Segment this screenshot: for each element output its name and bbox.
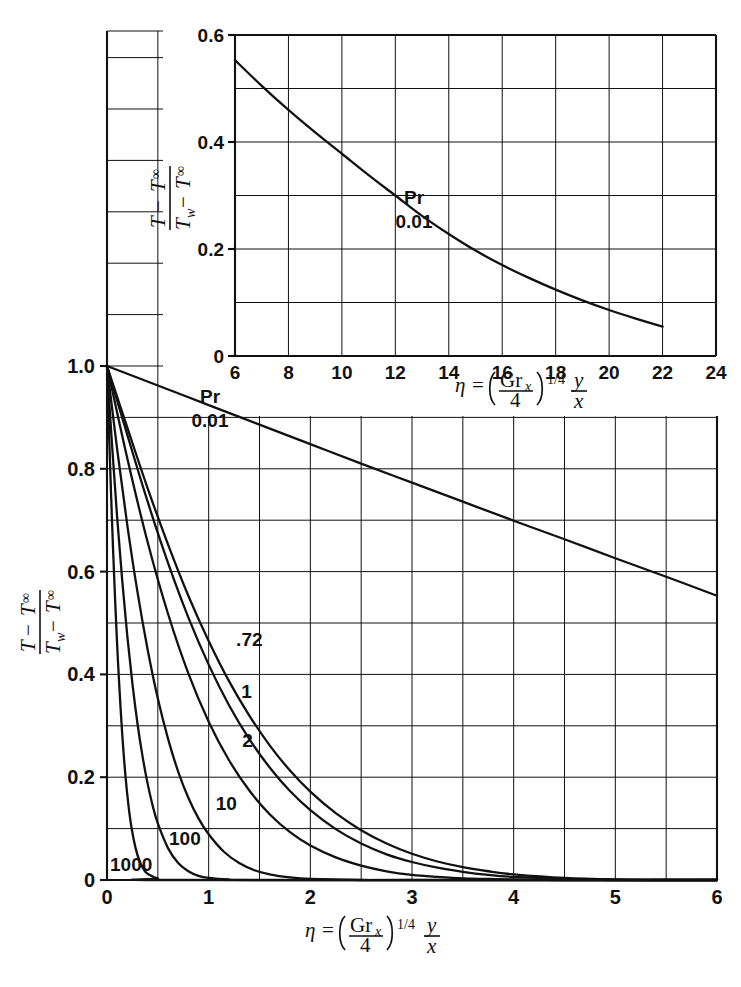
main-x-tick-label: 1: [203, 886, 214, 908]
inset-x-tick-label: 8: [283, 362, 294, 383]
inset-x-tick-label: 12: [385, 362, 406, 383]
main-y-tick-label: 0.6: [67, 561, 95, 583]
main-curve-label-100: 100: [169, 828, 201, 849]
main-ylabel-den-T2: T: [41, 600, 65, 613]
main-xlabel-eta: η: [305, 918, 315, 942]
main-ylabel-num-T2: T: [16, 603, 40, 616]
inset-y-tick-label: 0.2: [198, 239, 224, 260]
inset-y-tick-label: 0.4: [198, 132, 225, 153]
inset-x-tick-label: 10: [331, 362, 352, 383]
main-x-tick-label: 3: [406, 886, 417, 908]
inset-pr-value: 0.01: [396, 211, 433, 232]
inset-ylabel-den-inf: ∞: [173, 166, 188, 176]
inset-ylabel-num-minus: −: [146, 200, 170, 212]
main-x-tick-label: 0: [101, 886, 112, 908]
main-curve-label-p72: .72: [236, 629, 262, 650]
main-xlabel-x: x: [426, 934, 437, 958]
inset-x-tick-label: 22: [652, 362, 673, 383]
main-y-tick-label: 0.2: [67, 766, 95, 788]
figure-natural-convection-temperature-profiles: 68101214161820222400.20.40.6 012345600.2…: [0, 0, 741, 987]
main-ylabel-num-inf: ∞: [18, 593, 33, 603]
main-y-tick-label: 0.4: [67, 663, 96, 685]
main-pr-value: 0.01: [192, 410, 229, 431]
main-y-tick-label: 0.8: [67, 458, 95, 480]
main-x-tick-label: 2: [305, 886, 316, 908]
inset-xlabel-exponent: 1/4: [547, 372, 565, 387]
main-ylabel-den-w: w: [53, 632, 68, 642]
inset-xlabel-x: x: [573, 389, 584, 413]
inset-ylabel-num-T2: T: [146, 179, 170, 192]
inset-xlabel-equals: =: [472, 373, 484, 397]
main-xlabel-four: 4: [360, 933, 371, 957]
main-x-tick-label: 5: [610, 886, 621, 908]
main-x-tick-label: 6: [711, 886, 722, 908]
inset-x-tick-label: 20: [599, 362, 620, 383]
inset-x-tick-label: 6: [230, 362, 241, 383]
inset-backdrop-mask: [163, 0, 741, 416]
main-y-tick-label: 1.0: [67, 355, 95, 377]
inset-ylabel-num-inf: ∞: [148, 169, 163, 179]
inset-xlabel-eta: η: [455, 373, 465, 397]
main-curve-label-1: 1: [241, 681, 252, 702]
main-ylabel-num-T: T: [16, 639, 40, 652]
main-ylabel-num-minus: −: [16, 624, 40, 636]
main-pr-title: Pr: [200, 386, 221, 407]
main-curve-label-10: 10: [216, 793, 237, 814]
inset-ylabel-den-minus: −: [171, 196, 195, 208]
inset-y-tick-label: 0.6: [198, 25, 224, 46]
main-y-tick-label: 0: [84, 869, 95, 891]
inset-ylabel-num-T: T: [146, 215, 170, 228]
main-curve-label-2: 2: [242, 730, 253, 751]
inset-ylabel-den-w: w: [183, 208, 198, 218]
inset-pr-title: Pr: [404, 187, 425, 208]
main-ylabel-den-inf: ∞: [43, 590, 58, 600]
chart-canvas: 68101214161820222400.20.40.6 012345600.2…: [0, 0, 741, 987]
main-curve-label-1000: 1000: [110, 854, 152, 875]
inset-y-tick-label: 0: [213, 346, 224, 367]
main-xlabel-equals: =: [322, 918, 334, 942]
inset-ylabel-den-T2: T: [171, 176, 195, 189]
inset-xlabel-four: 4: [510, 388, 521, 412]
inset-x-tick-label: 24: [705, 362, 727, 383]
main-xlabel-exponent: 1/4: [397, 917, 415, 932]
main-x-tick-label: 4: [508, 886, 520, 908]
main-ylabel-den-minus: −: [41, 620, 65, 632]
